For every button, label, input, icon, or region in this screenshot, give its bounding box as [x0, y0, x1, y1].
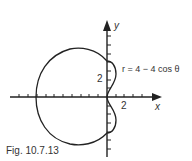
- x-axis-arrow-icon: [152, 93, 162, 101]
- y-axis-label: y: [114, 20, 119, 31]
- x-tick-label: 2: [121, 100, 127, 111]
- equation-label: r = 4 − 4 cos θ: [122, 64, 180, 74]
- y-axis-arrow-icon: [103, 20, 111, 31]
- figure-caption: Fig. 10.7.13: [6, 145, 59, 156]
- x-axis-label: x: [155, 101, 160, 112]
- y-tick-label: 2: [97, 73, 103, 84]
- polar-graph: [0, 0, 192, 161]
- x-axis: [10, 93, 162, 101]
